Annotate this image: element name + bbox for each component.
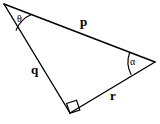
geometry-figure: p q r θ α	[0, 0, 160, 124]
side-label-r: r	[110, 89, 116, 102]
angle-label-theta: θ	[17, 14, 22, 24]
side-q-line	[4, 4, 70, 113]
side-label-q: q	[31, 63, 38, 76]
side-p-line	[4, 4, 155, 62]
side-label-p: p	[80, 15, 87, 28]
angle-label-alpha: α	[130, 57, 135, 67]
